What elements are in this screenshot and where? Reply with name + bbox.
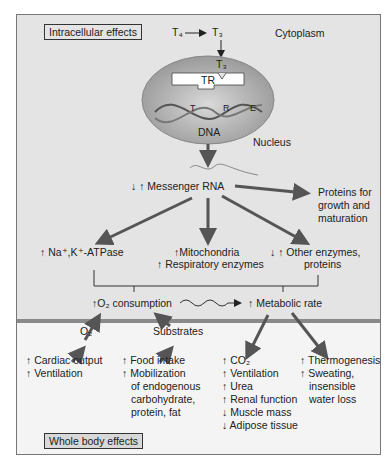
dna-label: DNA — [198, 126, 220, 139]
cytoplasm-label: Cytoplasm — [275, 27, 325, 40]
intracellular-effects-label: Intracellular effects — [44, 24, 142, 40]
mrna-label: ↓ ↑ Messenger RNA — [131, 180, 224, 193]
tre-r-label: R — [223, 102, 230, 115]
list-item: ↑ Renal function — [222, 393, 297, 406]
list-item: ↑ Food intake — [122, 354, 185, 367]
o2-label: O₂ — [80, 325, 92, 338]
list-item: of endogenous — [131, 380, 200, 393]
tr-label: TR — [201, 74, 215, 87]
t3-inner-label: T₃ — [216, 58, 227, 71]
list-item: ↑ Sweating, — [300, 367, 354, 380]
proteins-line1: Proteins for — [318, 186, 372, 199]
list-item: ↑ Ventilation — [222, 367, 279, 380]
list-item: protein, fat — [131, 406, 181, 419]
nucleus-label: Nucleus — [253, 136, 291, 149]
tre-e-label: E — [250, 102, 256, 115]
t3-label: T₃ — [212, 26, 223, 39]
whole-body-effects-label: Whole body effects — [44, 433, 143, 449]
proteins-label: proteins — [304, 258, 341, 271]
list-item: ↑ Urea — [222, 380, 253, 393]
list-item: ↑ Cardiac output — [26, 354, 102, 367]
proteins-line2: growth and — [318, 199, 370, 212]
metabolic-rate-label: ↑ Metabolic rate — [248, 297, 322, 310]
o2-consumption-label: ↑O₂ consumption — [92, 297, 172, 310]
list-item: carbohydrate, — [131, 393, 195, 406]
list-item: ↑ Mobilization — [122, 367, 186, 380]
list-item: insensible — [309, 380, 356, 393]
proteins-line3: maturation — [318, 212, 368, 225]
atpase-label: ↑ Na⁺,K⁺-ATPase — [40, 246, 124, 259]
respiratory-enzymes-label: ↑ Respiratory enzymes — [157, 258, 264, 271]
list-item: water loss — [309, 393, 356, 406]
list-item: ↓ Muscle mass — [222, 406, 291, 419]
list-item: ↑ Ventilation — [26, 367, 83, 380]
list-item: ↑ CO₂ — [222, 354, 250, 367]
list-item: ↓ Adipose tissue — [222, 419, 298, 432]
substrates-label: Substrates — [153, 325, 203, 338]
tre-t-label: T — [190, 102, 196, 115]
list-item: ↑ Thermogenesis — [300, 354, 380, 367]
t4-label: T₄ — [172, 26, 183, 39]
